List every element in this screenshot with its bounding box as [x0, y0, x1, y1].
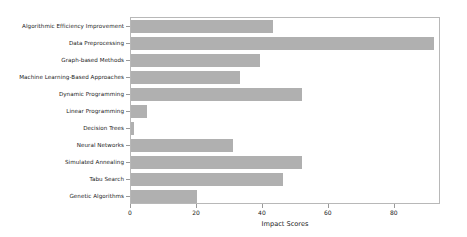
y-axis-tick-mark: [126, 111, 130, 112]
x-axis-tick-label: 20: [192, 209, 200, 216]
bar-row: [131, 88, 441, 101]
x-axis-tick-label: 80: [390, 209, 398, 216]
bar: [131, 37, 434, 50]
bar-row: [131, 54, 441, 67]
y-axis-tick-mark: [126, 60, 130, 61]
bar: [131, 88, 302, 101]
bar-row: [131, 139, 441, 152]
x-axis-tick-mark: [196, 204, 197, 208]
bar: [131, 54, 260, 67]
bar: [131, 156, 302, 169]
y-axis-label: Machine Learning-Based Approaches: [0, 74, 124, 80]
y-axis-label: Data Preprocessing: [0, 40, 124, 46]
y-axis-label: Linear Programming: [0, 108, 124, 114]
bar-row: [131, 20, 441, 33]
x-axis-tick-mark: [394, 204, 395, 208]
y-axis-label: Simulated Annealing: [0, 159, 124, 165]
y-axis-label: Algorithmic Efficiency Improvement: [0, 23, 124, 29]
bar: [131, 105, 147, 118]
y-axis-label: Dynamic Programming: [0, 91, 124, 97]
bar-chart-figure: Algorithmic Efficiency ImprovementData P…: [0, 0, 467, 237]
bar: [131, 173, 283, 186]
x-axis-tick-label: 0: [128, 209, 132, 216]
x-axis-title: Impact Scores: [130, 220, 440, 228]
y-axis-label: Decision Trees: [0, 125, 124, 131]
bar: [131, 20, 273, 33]
y-axis-tick-mark: [126, 179, 130, 180]
y-axis-label: Graph-based Methods: [0, 57, 124, 63]
bar-row: [131, 37, 441, 50]
y-axis-tick-mark: [126, 43, 130, 44]
bar-row: [131, 173, 441, 186]
y-axis-tick-mark: [126, 94, 130, 95]
y-axis-tick-mark: [126, 162, 130, 163]
bar-row: [131, 190, 441, 203]
x-axis-tick-mark: [130, 204, 131, 208]
bar-row: [131, 71, 441, 84]
x-axis-tick-label: 60: [324, 209, 332, 216]
plot-area: [130, 17, 440, 204]
y-axis-tick-mark: [126, 145, 130, 146]
y-axis-label: Tabu Search: [0, 176, 124, 182]
x-axis-tick-mark: [262, 204, 263, 208]
x-axis-tick-mark: [328, 204, 329, 208]
y-axis-label: Neural Networks: [0, 142, 124, 148]
bar: [131, 71, 240, 84]
bar-row: [131, 122, 441, 135]
x-axis-tick-label: 40: [258, 209, 266, 216]
y-axis-tick-mark: [126, 26, 130, 27]
bar: [131, 122, 134, 135]
bar-row: [131, 156, 441, 169]
y-axis-tick-mark: [126, 128, 130, 129]
bars-layer: [131, 18, 439, 203]
bar: [131, 190, 197, 203]
y-axis-label: Genetic Algorithms: [0, 193, 124, 199]
bar: [131, 139, 233, 152]
y-axis-tick-mark: [126, 196, 130, 197]
bar-row: [131, 105, 441, 118]
y-axis-tick-mark: [126, 77, 130, 78]
y-axis-category-labels: Algorithmic Efficiency ImprovementData P…: [0, 17, 124, 204]
